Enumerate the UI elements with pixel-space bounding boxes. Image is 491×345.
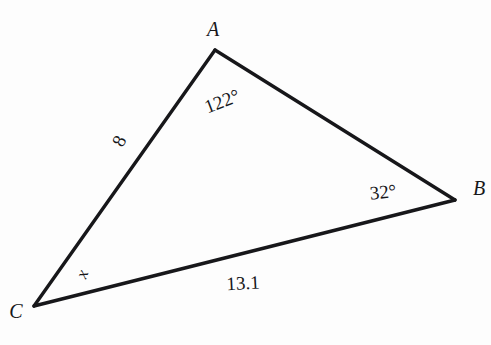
side-label-cb: 13.1 bbox=[226, 273, 260, 294]
vertex-label-c: C bbox=[9, 301, 22, 321]
angle-label-b: 32° bbox=[369, 181, 397, 203]
vertex-label-a: A bbox=[207, 19, 219, 39]
triangle-diagram: A B C 122° 32° 8 13.1 x bbox=[0, 0, 491, 345]
side-ab-line bbox=[215, 50, 455, 200]
vertex-label-b: B bbox=[473, 178, 485, 198]
